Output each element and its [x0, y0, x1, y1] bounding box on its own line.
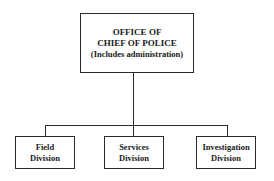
field-line-1: Field	[36, 142, 54, 153]
connector-field	[45, 125, 46, 136]
services-line-2: Division	[119, 153, 149, 164]
root-line-3: (Includes administration)	[91, 49, 183, 60]
investigation-division-box: Investigation Division	[196, 136, 256, 169]
field-line-2: Division	[30, 153, 60, 164]
services-division-box: Services Division	[104, 136, 164, 169]
field-division-box: Field Division	[15, 136, 75, 169]
connector-investigation	[227, 125, 228, 136]
connector-root-down	[133, 73, 134, 125]
root-line-1: OFFICE OF	[113, 27, 162, 38]
connector-services	[133, 125, 134, 136]
root-line-2: CHIEF OF POLICE	[97, 38, 176, 49]
connector-horizontal	[45, 125, 228, 126]
investigation-line-1: Investigation	[202, 142, 249, 153]
services-line-1: Services	[119, 142, 149, 153]
office-of-chief-of-police-box: OFFICE OF CHIEF OF POLICE (Includes admi…	[80, 13, 194, 73]
investigation-line-2: Division	[211, 153, 241, 164]
